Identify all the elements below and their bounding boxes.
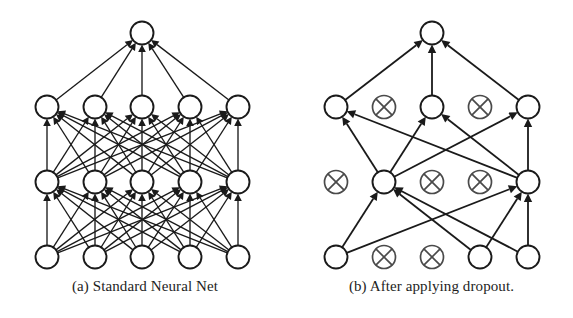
unit-hidden-2 xyxy=(179,96,202,119)
unit-input xyxy=(84,246,107,269)
connection-arrowhead xyxy=(196,117,203,125)
unit-hidden-2 xyxy=(36,96,59,119)
connection-arrowhead xyxy=(414,40,423,49)
edge-group xyxy=(43,40,242,253)
connection-line xyxy=(196,198,228,247)
connection-line xyxy=(402,191,518,251)
unit-output xyxy=(131,22,154,45)
connection-arrowhead xyxy=(428,45,436,54)
unit-input xyxy=(517,246,540,269)
unit-hidden-2 xyxy=(131,96,154,119)
caption-panel-b: (b) After applying dropout. xyxy=(290,278,573,295)
connection-line xyxy=(355,114,518,178)
connection-arrowhead xyxy=(524,194,532,203)
connection-line xyxy=(347,124,378,172)
connection-line xyxy=(58,189,221,253)
panel-after-dropout: (b) After applying dropout. xyxy=(290,0,573,318)
connection-line xyxy=(57,123,89,172)
connection-line xyxy=(196,123,228,172)
connection-arrowhead xyxy=(234,119,242,127)
unit-hidden-1 xyxy=(373,171,396,194)
connection-arrowhead xyxy=(524,119,532,128)
connection-arrowhead xyxy=(186,194,194,202)
unit-hidden-1 xyxy=(131,171,154,194)
unit-output xyxy=(421,22,444,45)
edge-group xyxy=(342,40,532,253)
connection-arrowhead xyxy=(43,119,51,127)
connection-arrowhead xyxy=(138,45,146,53)
connection-line xyxy=(448,119,519,175)
connection-arrowhead xyxy=(441,40,450,49)
unit-input xyxy=(227,246,250,269)
connection-arrowhead xyxy=(196,192,203,200)
connection-line xyxy=(152,49,183,97)
dropped-unit-hidden-1 xyxy=(421,171,444,194)
connection-line xyxy=(65,189,228,253)
panel-standard-neural-net: (a) Standard Neural Net xyxy=(0,0,290,318)
connection-line xyxy=(112,116,228,177)
unit-hidden-1 xyxy=(227,171,250,194)
connection-line xyxy=(57,116,173,177)
dropped-unit-hidden-1 xyxy=(325,171,348,194)
connection-line xyxy=(112,191,228,252)
connection-line xyxy=(101,49,132,97)
connection-arrowhead xyxy=(43,194,51,202)
connection-line xyxy=(486,199,517,247)
dropped-unit-hidden-2 xyxy=(373,96,396,119)
connection-arrowhead xyxy=(186,119,194,127)
connection-line xyxy=(347,189,510,253)
figure-root: (a) Standard Neural Net (b) After applyi… xyxy=(0,0,573,318)
connection-arrowhead xyxy=(234,194,242,202)
unit-hidden-1 xyxy=(36,171,59,194)
unit-hidden-2 xyxy=(84,96,107,119)
unit-hidden-2 xyxy=(517,96,540,119)
after-dropout-diagram xyxy=(290,0,573,280)
unit-hidden-1 xyxy=(517,171,540,194)
unit-input xyxy=(325,246,348,269)
unit-input xyxy=(131,246,154,269)
dropped-unit-hidden-1 xyxy=(469,171,492,194)
standard-neural-net-diagram xyxy=(0,0,290,280)
caption-panel-a: (a) Standard Neural Net xyxy=(0,278,290,295)
connection-line xyxy=(57,198,89,247)
dropped-unit-hidden-2 xyxy=(469,96,492,119)
connection-line xyxy=(58,114,221,178)
connection-line xyxy=(345,45,416,100)
unit-hidden-1 xyxy=(84,171,107,194)
connection-line xyxy=(65,114,228,178)
unit-hidden-2 xyxy=(421,96,444,119)
dropped-unit-input xyxy=(421,246,444,269)
dropped-unit-input xyxy=(373,246,396,269)
unit-hidden-1 xyxy=(179,171,202,194)
connection-arrowhead xyxy=(138,119,146,127)
connection-line xyxy=(448,45,519,100)
unit-input xyxy=(469,246,492,269)
unit-input xyxy=(36,246,59,269)
connection-arrowhead xyxy=(138,194,146,202)
connection-line xyxy=(57,191,173,252)
unit-input xyxy=(179,246,202,269)
connection-line xyxy=(342,199,373,247)
unit-hidden-2 xyxy=(325,96,348,119)
unit-hidden-2 xyxy=(227,96,250,119)
